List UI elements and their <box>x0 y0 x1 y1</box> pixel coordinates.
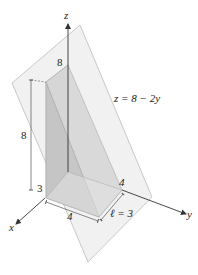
left-base-label: 3 <box>37 182 43 194</box>
z-axis-label: z <box>63 9 69 21</box>
left-height-label: 8 <box>21 129 27 141</box>
top-height-label: 8 <box>57 56 63 68</box>
y-axis-label: y <box>186 208 192 220</box>
x-axis <box>16 198 45 224</box>
right-width-label: 4 <box>119 176 125 188</box>
x-axis-label: x <box>8 221 14 233</box>
wedge-diagram: z y x 8 8 3 4 4 ℓ = 3 z = 8 − 2y <box>0 0 198 275</box>
front-width-label: 4 <box>67 210 73 222</box>
length-label: ℓ = 3 <box>110 207 134 219</box>
plane-equation-label: z = 8 − 2y <box>113 92 160 104</box>
